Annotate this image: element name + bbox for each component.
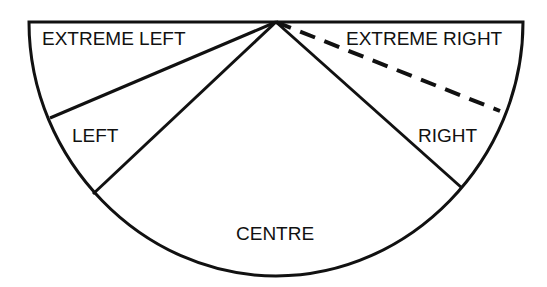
label-right: RIGHT (418, 125, 478, 146)
label-centre: CENTRE (236, 223, 314, 244)
label-left: LEFT (72, 125, 119, 146)
label-extreme-right: EXTREME RIGHT (346, 28, 503, 49)
label-extreme-left: EXTREME LEFT (42, 28, 186, 49)
political-spectrum-diagram: EXTREME LEFT LEFT CENTRE RIGHT EXTREME R… (0, 0, 547, 287)
